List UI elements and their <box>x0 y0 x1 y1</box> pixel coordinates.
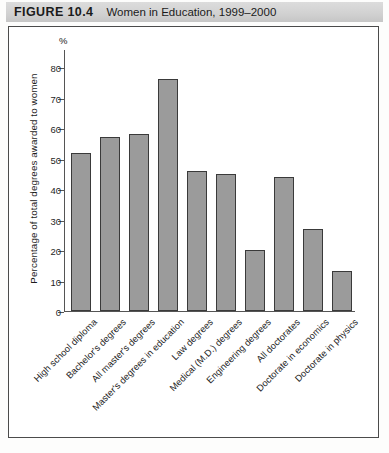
bar <box>71 153 91 311</box>
figure-title: Women in Education, 1999–2000 <box>106 6 276 18</box>
bar <box>216 174 236 311</box>
bar <box>158 79 178 311</box>
y-tick-label: 30 <box>50 215 61 226</box>
figure-header: FIGURE 10.4 Women in Education, 1999–200… <box>6 2 383 22</box>
bar <box>129 134 149 311</box>
y-tick-label: 80 <box>50 63 61 74</box>
bar <box>303 229 323 311</box>
y-tick-label: 0 <box>56 307 61 318</box>
y-axis-line <box>64 50 65 312</box>
figure-number: FIGURE 10.4 <box>14 5 93 19</box>
y-tick-label: 50 <box>50 154 61 165</box>
y-axis-title: Percentage of total degrees awarded to w… <box>26 48 40 308</box>
y-tick-label: 20 <box>50 246 61 257</box>
y-tick-label: 70 <box>50 93 61 104</box>
y-tick-label: 10 <box>50 276 61 287</box>
bar <box>100 137 120 311</box>
y-tick-label: 60 <box>50 124 61 135</box>
bar <box>245 250 265 311</box>
plot-area: 01020304050607080 <box>64 50 355 312</box>
y-axis-unit: % <box>59 35 67 46</box>
y-axis-title-text: Percentage of total degrees awarded to w… <box>28 73 39 283</box>
bar <box>187 171 207 311</box>
figure-container: FIGURE 10.4 Women in Education, 1999–200… <box>0 0 389 453</box>
y-tick-label: 40 <box>50 185 61 196</box>
source-note <box>8 441 380 452</box>
bar <box>274 177 294 311</box>
bar <box>332 271 352 311</box>
